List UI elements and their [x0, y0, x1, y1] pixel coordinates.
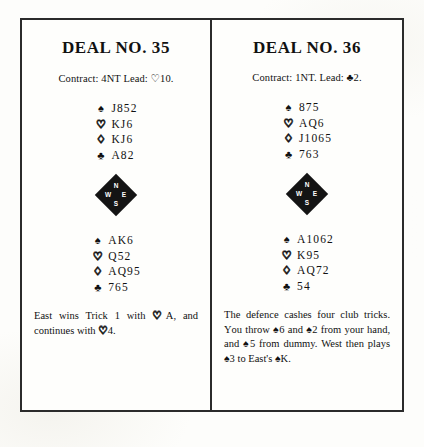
deal-panel-35: DEAL NO. 35 Contract: 4NT Lead: ♡10. ♠ J… — [22, 20, 212, 410]
deal-commentary: East wins Trick 1 with ♡A, and continues… — [32, 309, 200, 338]
heart-icon: ♡ — [280, 248, 293, 264]
card-holding: KJ6 — [111, 132, 133, 148]
deal-title: DEAL NO. 36 — [253, 38, 361, 58]
club-icon: ♣ — [94, 148, 107, 164]
compass-south-label: S — [302, 200, 312, 207]
heart-icon: ♡ — [91, 249, 104, 265]
spade-icon: ♠ — [224, 353, 230, 364]
compass-west-label: W — [294, 191, 304, 198]
deal-commentary: The defence cashes four club tricks. You… — [222, 308, 392, 366]
deal-panel-36: DEAL NO. 36 Contract: 1NT. Lead: ♣2. ♠ 8… — [212, 20, 402, 410]
card-holding: J852 — [111, 101, 137, 117]
contract-line: Contract: 1NT. Lead: ♣2. — [252, 72, 361, 83]
hand-row: ♣ A82 — [94, 148, 137, 164]
deal-columns: DEAL NO. 35 Contract: 4NT Lead: ♡10. ♠ J… — [22, 20, 402, 410]
heart-icon: ♡ — [152, 310, 166, 321]
compass-rose-container: N W E S — [95, 174, 137, 216]
compass-west-label: W — [103, 192, 113, 199]
card-holding: 765 — [108, 280, 129, 296]
hand-row: ♢ AQ72 — [280, 263, 334, 279]
hand-row: ♢ AQ95 — [91, 264, 141, 280]
heart-icon: ♡ — [151, 73, 161, 84]
compass-east-label: E — [310, 191, 320, 198]
north-hand: ♠ J852 ♡ KJ6 ♢ KJ6 ♣ A82 — [94, 101, 137, 163]
club-icon: ♣ — [347, 72, 354, 83]
card-holding: AK6 — [108, 233, 134, 249]
card-holding: 54 — [297, 279, 311, 295]
compass-rose-icon: N W E S — [286, 173, 328, 215]
diamond-icon: ♢ — [280, 263, 293, 279]
hand-row: ♡ Q52 — [91, 249, 141, 265]
card-holding: KJ6 — [111, 117, 133, 133]
hand-row: ♢ J1065 — [282, 131, 332, 147]
card-holding: 875 — [299, 100, 320, 116]
heart-icon: ♡ — [282, 116, 295, 132]
hand-row: ♣ 54 — [280, 279, 334, 295]
book-page: DEAL NO. 35 Contract: 4NT Lead: ♡10. ♠ J… — [0, 0, 424, 447]
compass-north-label: N — [302, 182, 312, 189]
contract-line: Contract: 4NT Lead: ♡10. — [58, 72, 173, 84]
card-holding: A1062 — [297, 232, 334, 248]
compass-diamond-shape — [286, 173, 328, 215]
compass-rose-icon: N W E S — [95, 174, 137, 216]
deal-title: DEAL NO. 35 — [62, 38, 170, 58]
card-holding: Q52 — [108, 249, 131, 265]
card-holding: AQ72 — [297, 263, 330, 279]
hand-row: ♣ 765 — [91, 280, 141, 296]
hand-row: ♢ KJ6 — [94, 132, 137, 148]
spade-icon: ♠ — [280, 232, 293, 248]
hand-row: ♠ AK6 — [91, 233, 141, 249]
card-holding: K95 — [297, 248, 320, 264]
club-icon: ♣ — [280, 279, 293, 295]
card-holding: J1065 — [299, 131, 332, 147]
hand-row: ♣ 763 — [282, 147, 332, 163]
hand-row: ♠ 875 — [282, 100, 332, 116]
spade-icon: ♠ — [243, 338, 250, 349]
diamond-icon: ♢ — [91, 264, 104, 280]
north-hand: ♠ 875 ♡ AQ6 ♢ J1065 ♣ 763 — [282, 100, 332, 162]
deals-frame: DEAL NO. 35 Contract: 4NT Lead: ♡10. ♠ J… — [20, 18, 404, 412]
compass-south-label: S — [111, 201, 121, 208]
compass-north-label: N — [111, 183, 121, 190]
card-holding: AQ6 — [299, 116, 325, 132]
heart-icon: ♡ — [94, 117, 107, 133]
compass-diamond-shape — [95, 174, 137, 216]
compass-rose-container: N W E S — [286, 173, 328, 215]
club-icon: ♣ — [282, 147, 295, 163]
south-hand: ♠ A1062 ♡ K95 ♢ AQ72 ♣ 54 — [280, 232, 334, 294]
spade-icon: ♠ — [275, 353, 281, 364]
hand-row: ♠ A1062 — [280, 232, 334, 248]
card-holding: 763 — [299, 147, 320, 163]
south-hand: ♠ AK6 ♡ Q52 ♢ AQ95 ♣ 765 — [91, 233, 141, 295]
spade-icon: ♠ — [306, 324, 312, 335]
heart-icon: ♡ — [98, 325, 107, 336]
card-holding: A82 — [111, 148, 134, 164]
club-icon: ♣ — [91, 280, 104, 296]
hand-row: ♠ J852 — [94, 101, 137, 117]
hand-row: ♡ K95 — [280, 248, 334, 264]
spade-icon: ♠ — [94, 101, 107, 117]
spade-icon: ♠ — [282, 100, 295, 116]
compass-east-label: E — [119, 192, 129, 199]
diamond-icon: ♢ — [94, 132, 107, 148]
diamond-icon: ♢ — [282, 131, 295, 147]
hand-row: ♡ AQ6 — [282, 116, 332, 132]
spade-icon: ♠ — [273, 324, 279, 335]
spade-icon: ♠ — [91, 233, 104, 249]
hand-row: ♡ KJ6 — [94, 117, 137, 133]
card-holding: AQ95 — [108, 264, 141, 280]
